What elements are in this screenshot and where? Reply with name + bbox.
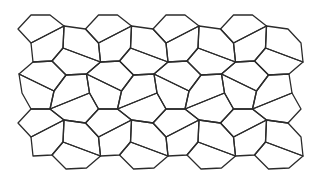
pentagon-tile — [120, 48, 169, 75]
pentagon-tile — [253, 74, 293, 109]
pentagon-tile — [266, 120, 304, 156]
pentagon-tile — [63, 26, 101, 62]
pentagonal-tiling-figure — [0, 0, 323, 177]
pentagon-tile — [154, 74, 189, 109]
pentagon-tile — [198, 120, 236, 156]
pentagon-tile — [255, 142, 304, 169]
pentagon-tile — [222, 74, 257, 109]
pentagon-tile — [118, 74, 158, 109]
pentagon-tile — [187, 48, 236, 75]
pentagon-tile — [63, 120, 101, 156]
pentagon-tile — [185, 74, 225, 109]
pentagon-tile — [99, 120, 132, 156]
pentagon-tile — [87, 74, 122, 109]
pentagon-tile — [222, 61, 269, 91]
pentagon-tile — [198, 26, 236, 62]
pentagon-tile — [50, 93, 99, 123]
pentagon-tile — [253, 93, 302, 123]
pentagon-tile — [187, 142, 236, 169]
pentagon-tile — [50, 74, 90, 109]
pentagon-tile — [52, 142, 101, 169]
pentagon-tile — [234, 120, 267, 156]
pentagon-tile — [266, 26, 304, 62]
pentagon-tile — [166, 26, 199, 62]
pentagon-tile — [31, 26, 64, 62]
pentagon-tile — [31, 120, 64, 156]
pentagon-tile — [19, 74, 54, 109]
pentagon-tile — [154, 61, 201, 91]
pentagon-tile — [255, 48, 304, 75]
pentagon-tile — [131, 120, 169, 156]
pentagon-tile — [166, 120, 199, 156]
pentagon-tile — [99, 26, 132, 62]
pentagon-tile — [52, 48, 101, 75]
tiling-faces — [18, 15, 303, 169]
pentagon-tile — [118, 93, 167, 123]
pentagon-tile — [120, 142, 169, 169]
pentagon-tile — [87, 61, 134, 91]
pentagon-tile — [131, 26, 169, 62]
pentagon-tile — [19, 61, 66, 91]
pentagon-tile — [185, 93, 234, 123]
pentagon-tile — [234, 26, 267, 62]
